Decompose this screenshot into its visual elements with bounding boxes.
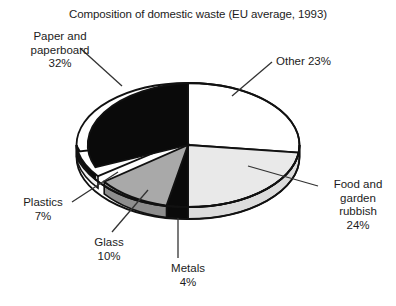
slice-label-food-and-garden-rubbish-line1: Food and [322, 178, 394, 192]
slice-label-plastics-value: 7% [10, 210, 76, 224]
slice-label-glass-line1: Glass [80, 236, 138, 250]
slice-label-glass-value: 10% [80, 250, 138, 264]
slice-label-glass: Glass 10% [80, 236, 138, 263]
slice-label-paper-and-paperboard-value: 32% [8, 57, 112, 71]
slice-label-paper-and-paperboard-line1: Paper and [8, 30, 112, 44]
slice-label-metals: Metals 4% [155, 262, 221, 289]
slice-label-metals-value: 4% [155, 276, 221, 290]
slice-label-food-and-garden-rubbish-value: 24% [322, 219, 394, 233]
slice-label-plastics-line1: Plastics [10, 196, 76, 210]
slice-label-paper-and-paperboard-line2: paperboard [8, 44, 112, 58]
slice-label-food-and-garden-rubbish-line3: rubbish [322, 205, 394, 219]
slice-label-paper-and-paperboard: Paper and paperboard 32% [8, 30, 112, 71]
slice-label-food-and-garden-rubbish-line2: garden [322, 192, 394, 206]
leader-line-other [232, 62, 272, 96]
slice-label-other: Other 23% [276, 55, 386, 69]
slice-label-other-text: Other 23% [276, 55, 386, 69]
slice-other [188, 83, 299, 153]
slice-label-metals-line1: Metals [155, 262, 221, 276]
slice-label-plastics: Plastics 7% [10, 196, 76, 223]
pie-chart-figure: Composition of domestic waste (EU averag… [0, 0, 396, 306]
slice-label-food-and-garden-rubbish: Food and garden rubbish 24% [322, 178, 394, 232]
